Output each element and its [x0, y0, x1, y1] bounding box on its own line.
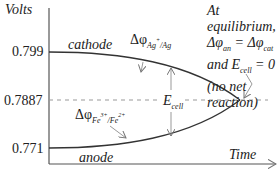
cathode-potential-label: ΔφAg+/Ag	[130, 33, 171, 50]
anode-potential-label: ΔφFe3+/Fe2+	[75, 108, 125, 125]
anode-label: anode	[79, 151, 113, 165]
ecell-label: Ecell	[161, 94, 185, 111]
cathode-label-arrow	[141, 62, 143, 72]
cathode-label: cathode	[68, 38, 112, 52]
tick-07887: 0.7887	[4, 94, 43, 108]
x-axis-label: Time	[229, 148, 256, 162]
equilibrium-note: At equilibrium, Δφan = Δφcat and Ecell =…	[207, 3, 278, 111]
tick-0771: 0.771	[12, 142, 44, 156]
y-axis-label: Volts	[5, 3, 32, 17]
anode-label-arrow	[110, 126, 126, 138]
tick-0799: 0.799	[12, 45, 44, 59]
